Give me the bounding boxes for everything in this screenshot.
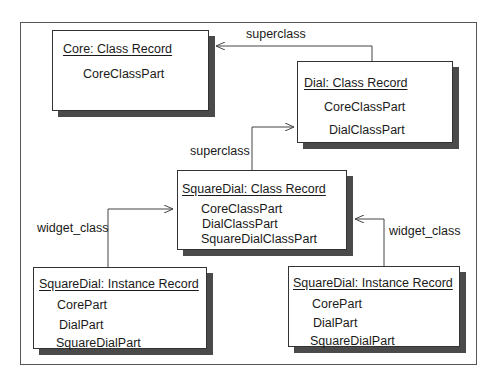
core-class-record-box: Core: Class Record CoreClassPart bbox=[52, 30, 209, 111]
box-title: SquareDial: Instance Record bbox=[39, 277, 199, 291]
field-squaredial-part: SquareDialPart bbox=[310, 334, 395, 348]
edge-label-widget-class-right: widget_class bbox=[389, 224, 461, 238]
box-title: Dial: Class Record bbox=[304, 76, 408, 90]
field-dial-class-part: DialClassPart bbox=[329, 123, 405, 137]
field-core-class-part: CoreClassPart bbox=[201, 202, 282, 216]
field-dial-part: DialPart bbox=[313, 316, 357, 330]
dial-class-record-box: Dial: Class Record CoreClassPart DialCla… bbox=[297, 61, 453, 143]
field-squaredial-part: SquareDialPart bbox=[56, 336, 141, 350]
field-core-part: CorePart bbox=[312, 297, 362, 311]
field-dial-class-part: DialClassPart bbox=[202, 217, 278, 231]
edge-label-superclass-middle: superclass bbox=[190, 144, 250, 158]
field-core-part: CorePart bbox=[57, 298, 107, 312]
edge-label-widget-class-left: widget_class bbox=[37, 221, 109, 235]
box-title: Core: Class Record bbox=[63, 42, 172, 56]
box-title: SquareDial: Class Record bbox=[182, 182, 326, 196]
squaredial-class-record-box: SquareDial: Class Record CoreClassPart D… bbox=[177, 170, 347, 250]
field-core-class-part: CoreClassPart bbox=[324, 100, 405, 114]
squaredial-instance-record-right: SquareDial: Instance Record CorePart Dia… bbox=[288, 266, 460, 347]
box-title: SquareDial: Instance Record bbox=[293, 276, 453, 290]
field-core-class-part: CoreClassPart bbox=[83, 67, 164, 81]
edge-label-superclass-top: superclass bbox=[246, 27, 306, 41]
field-dial-part: DialPart bbox=[59, 318, 103, 332]
field-squaredial-class-part: SquareDialClassPart bbox=[201, 232, 317, 246]
squaredial-instance-record-left: SquareDial: Instance Record CorePart Dia… bbox=[33, 267, 207, 349]
